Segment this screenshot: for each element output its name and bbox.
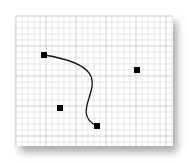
- control-point-1[interactable]: [134, 67, 140, 73]
- bezier-diagram: [0, 0, 189, 162]
- end-point[interactable]: [94, 123, 100, 129]
- start-point[interactable]: [41, 52, 47, 58]
- control-points: [41, 52, 140, 129]
- control-point-2[interactable]: [57, 105, 63, 111]
